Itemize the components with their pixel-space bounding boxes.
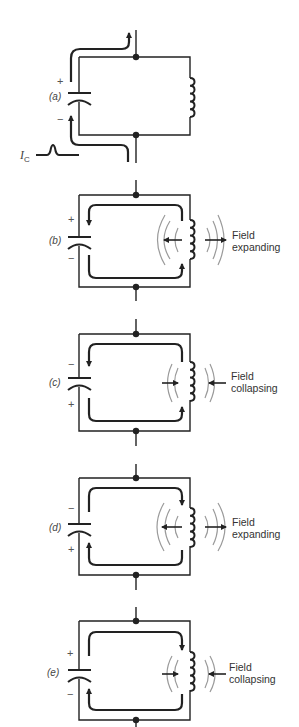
panel-c-circuit bbox=[68, 319, 226, 446]
field-label-c: Fieldcollapsing bbox=[231, 370, 278, 394]
inductor-icon bbox=[190, 508, 195, 547]
polarity-sign-top-b: + bbox=[68, 213, 74, 225]
polarity-sign-top-e: + bbox=[67, 647, 73, 659]
polarity-sign-bottom-d: + bbox=[68, 543, 74, 555]
polarity-sign-bottom-b: − bbox=[68, 252, 74, 264]
panel-label-a: (a) bbox=[49, 91, 61, 102]
panel-label-b: (b) bbox=[49, 235, 61, 246]
field-label-e: Fieldcollapsing bbox=[229, 661, 276, 685]
inductor-icon bbox=[190, 78, 195, 117]
current-flow-arrow bbox=[89, 488, 182, 512]
current-flow-arrow bbox=[89, 398, 182, 421]
polarity-sign-bottom-e: − bbox=[67, 688, 73, 700]
inductor-icon bbox=[190, 220, 195, 259]
polarity-sign-top-c: − bbox=[68, 358, 74, 370]
panel-d-circuit bbox=[68, 464, 226, 590]
current-flow-arrow bbox=[89, 255, 182, 278]
current-flow-arrow bbox=[89, 344, 182, 366]
field-label-d: Fieldexpanding bbox=[232, 516, 280, 540]
current-pulse-label: IC bbox=[20, 148, 30, 164]
panel-label-e: (e) bbox=[47, 667, 59, 678]
polarity-sign-bottom-c: + bbox=[68, 398, 74, 410]
polarity-sign-bottom-a: − bbox=[57, 113, 63, 125]
polarity-sign-top-a: + bbox=[57, 75, 63, 87]
current-flow-arrow bbox=[89, 205, 182, 225]
inductor-icon bbox=[190, 362, 195, 401]
current-pulse-icon bbox=[36, 145, 79, 155]
panel-b-circuit bbox=[68, 180, 226, 301]
panel-label-c: (c) bbox=[49, 377, 61, 388]
panel-label-d: (d) bbox=[49, 522, 61, 533]
current-flow-arrow bbox=[89, 543, 182, 565]
inductor-icon bbox=[190, 652, 195, 691]
lc-tank-circuit-diagram bbox=[0, 0, 299, 727]
field-label-b: Fieldexpanding bbox=[232, 229, 280, 253]
current-flow-arrow bbox=[89, 632, 182, 656]
current-flow-arrow bbox=[89, 689, 182, 710]
polarity-sign-top-d: − bbox=[68, 502, 74, 514]
panel-e-circuit bbox=[68, 607, 226, 727]
